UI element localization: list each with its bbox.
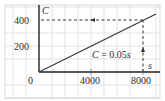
- x-tick-label-8000: 8000: [131, 75, 151, 86]
- x-tick-label-4000: 4000: [80, 75, 100, 86]
- x-axis-label: s: [148, 60, 152, 71]
- series-line-c-equals-0.05s: [39, 14, 156, 72]
- arrow-up-icon: [141, 47, 145, 52]
- y-tick-label-200: 200: [14, 41, 29, 52]
- cost-chart: 400 200 0 4000 8000 C s C = 0.05s: [0, 0, 165, 101]
- y-tick-label-400: 400: [14, 15, 29, 26]
- y-axis-label: C: [42, 5, 49, 16]
- equation-label: C = 0.05s: [92, 49, 131, 60]
- origin-label: 0: [28, 75, 33, 86]
